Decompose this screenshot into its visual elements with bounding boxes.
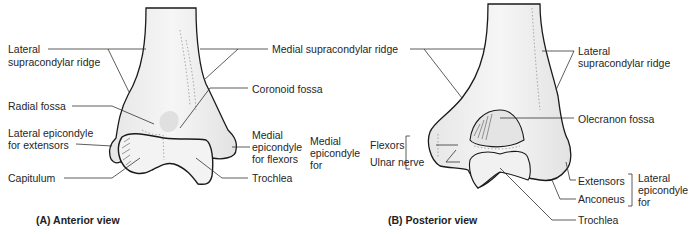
label-lateral-supracondylar-ridge-line1: Lateral <box>8 43 40 55</box>
label-posterior-lateral-epicondyle-line3: for <box>638 196 650 208</box>
label-trochlea-anterior: Trochlea <box>252 172 292 184</box>
label-flexors: Flexors <box>370 139 404 151</box>
label-radial-fossa: Radial fossa <box>8 100 66 112</box>
label-posterior-lateral-epicondyle-line2: epicondyle <box>638 184 688 196</box>
label-trochlea-posterior: Trochlea <box>578 214 618 226</box>
label-ulnar-nerve: Ulnar nerve <box>370 156 424 168</box>
label-anconeus: Anconeus <box>578 193 625 205</box>
label-lateral-epicondyle-line2: for extensors <box>8 139 69 151</box>
label-medial-epicondyle-line2: epicondyle <box>252 141 302 153</box>
label-posterior-lateral-supracondylar-ridge-line1: Lateral <box>578 45 610 57</box>
label-posterior-medial-epicondyle-line3: for <box>310 159 322 171</box>
label-capitulum: Capitulum <box>8 172 55 184</box>
posterior-humerus <box>428 4 570 188</box>
label-medial-epicondyle-line1: Medial <box>252 129 283 141</box>
label-olecranon-fossa: Olecranon fossa <box>578 113 654 125</box>
label-coronoid-fossa: Coronoid fossa <box>252 83 323 95</box>
humerus-distal-diagram: Lateral supracondylar ridge Radial fossa… <box>0 0 694 234</box>
label-lateral-epicondyle-line1: Lateral epicondyle <box>8 127 93 139</box>
caption-anterior-view: (A) Anterior view <box>36 214 120 226</box>
label-medial-epicondyle-line3: for flexors <box>252 153 298 165</box>
label-lateral-supracondylar-ridge-line2: supracondylar ridge <box>8 56 100 68</box>
label-posterior-medial-epicondyle-line2: epicondyle <box>310 147 360 159</box>
label-extensors: Extensors <box>578 175 625 187</box>
anterior-humerus <box>109 8 236 184</box>
label-posterior-lateral-epicondyle-line1: Lateral <box>638 172 670 184</box>
caption-posterior-view: (B) Posterior view <box>388 214 477 226</box>
label-posterior-medial-epicondyle-line1: Medial <box>310 135 341 147</box>
label-medial-supracondylar-ridge: Medial supracondylar ridge <box>272 43 398 55</box>
label-posterior-lateral-supracondylar-ridge-line2: supracondylar ridge <box>578 57 670 69</box>
